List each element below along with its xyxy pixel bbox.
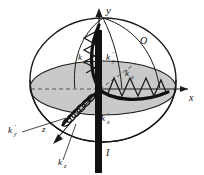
figure-canvas: y x z O I k y k ′ y k x k ′ x k ′ y k z — [0, 0, 204, 175]
label-kxp-sub: x — [106, 119, 110, 125]
label-kzp: k ′ y — [8, 123, 17, 137]
z-axis-label: z — [41, 124, 46, 134]
label-ky-sub: y — [83, 58, 87, 64]
diagram-svg: y x z O I k y k ′ y k x k ′ x k ′ y k z — [0, 0, 204, 175]
y-axis-label: y — [105, 4, 111, 16]
y-axis-arrowhead — [96, 8, 103, 17]
label-kzp-prime: ′ — [14, 123, 16, 131]
current-label: I — [105, 147, 110, 158]
label-kz: k z — [58, 157, 67, 169]
origin-label: O — [140, 35, 147, 46]
x-axis-label: x — [188, 92, 194, 103]
label-kzp-sub: y — [13, 131, 17, 137]
label-kz-base: k — [58, 157, 63, 167]
label-kyp-prime: ′ — [112, 50, 114, 58]
label-kyp-base: k — [106, 52, 111, 62]
equatorial-disc — [30, 61, 176, 115]
current-filament — [95, 30, 102, 173]
label-kx-sub: x — [130, 74, 134, 80]
label-kz-sub: z — [63, 163, 67, 169]
z-axis-arrowhead — [53, 134, 63, 144]
label-kyp-sub: y — [111, 58, 115, 64]
label-ky-base: k — [78, 52, 83, 62]
x-axis-arrowhead — [180, 86, 188, 92]
label-kzp-base: k — [8, 125, 13, 135]
